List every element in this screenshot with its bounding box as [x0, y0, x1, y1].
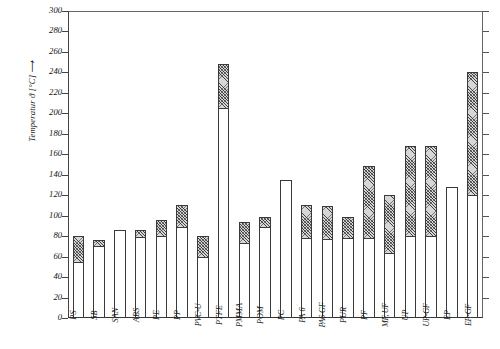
bar-segment-high — [156, 220, 168, 237]
y-tick-right — [483, 216, 489, 217]
bar-segment-high — [467, 72, 479, 196]
bar-segment-low — [405, 236, 417, 318]
y-tick-right — [483, 11, 489, 12]
bar-segment-high — [197, 236, 209, 257]
bar-segment-low — [114, 230, 126, 318]
y-tick-label: 0 — [28, 312, 62, 322]
bar-segment-high — [135, 230, 147, 238]
bar-pe: PE — [156, 220, 168, 318]
bar-ep-gf: EP-GF — [467, 72, 479, 318]
bar-pp: PP — [176, 205, 188, 318]
bar-pa-6: PA 6 — [301, 205, 313, 318]
bar-segment-high — [342, 217, 354, 239]
bar-pur: PUR — [342, 217, 354, 318]
y-tick-label: 280 — [28, 25, 62, 35]
bar-segment-low — [218, 108, 230, 318]
bar-abs: ABS — [135, 230, 147, 318]
y-tick-label: 120 — [28, 189, 62, 199]
y-tick-right — [483, 113, 489, 114]
y-tick-right — [483, 236, 489, 237]
x-tick-label: PA 6 — [298, 307, 307, 322]
bar-segment-low — [259, 227, 271, 318]
bar-pc: PC — [280, 180, 292, 318]
x-tick-label: PTFE — [215, 305, 224, 325]
y-tick-right — [483, 93, 489, 94]
y-tick-label: 300 — [28, 5, 62, 15]
bar-sb: SB — [93, 240, 105, 318]
bar-pmma: PMMA — [239, 222, 251, 318]
y-tick — [62, 318, 68, 319]
bar-pa6-gf: PA6-GF — [322, 206, 334, 318]
x-tick-label: PP — [173, 310, 182, 320]
x-tick-label: MF, UF — [381, 303, 390, 327]
bar-ps: PS — [73, 236, 85, 318]
x-tick-label: PF — [360, 310, 369, 320]
x-tick-label: PS — [69, 310, 78, 319]
bar-segment-high — [239, 222, 251, 244]
bar-san: SAN — [114, 230, 126, 318]
bar-segment-high — [384, 195, 396, 253]
bar-segment-high — [218, 64, 230, 109]
y-tick-right — [483, 31, 489, 32]
bar-segment-low — [280, 180, 292, 318]
y-tick-right — [483, 72, 489, 73]
bar-mf-uf: MF, UF — [384, 195, 396, 318]
x-tick-label: PVC-U — [194, 304, 203, 327]
y-tick-label: 100 — [28, 210, 62, 220]
y-tick-label: 240 — [28, 66, 62, 76]
bar-segment-high — [405, 146, 417, 237]
y-tick-right — [483, 277, 489, 278]
bar-up-gf: UP-GF — [425, 146, 437, 318]
y-tick-right — [483, 298, 489, 299]
x-tick-label: UP-GF — [422, 303, 431, 326]
bar-ep: EP — [446, 187, 458, 318]
y-tick-right — [483, 195, 489, 196]
chart-container: Temperatur ϑ [°C] ⟶ 02040608010012014016… — [0, 0, 500, 349]
bar-segment-high — [363, 166, 375, 240]
bar-segment-low — [176, 227, 188, 318]
x-tick-label: POM — [256, 306, 265, 324]
x-tick-label: PMMA — [235, 303, 244, 327]
bar-segment-high — [93, 240, 105, 247]
y-tick-label: 160 — [28, 148, 62, 158]
bar-segment-high — [176, 205, 188, 227]
y-tick-right — [483, 175, 489, 176]
bar-segment-low — [93, 246, 105, 318]
bar-pom: POM — [259, 217, 271, 318]
bar-segment-high — [301, 205, 313, 239]
bar-segment-low — [446, 187, 458, 318]
x-tick-label: SB — [90, 310, 99, 319]
x-tick-label: PUR — [339, 307, 348, 323]
y-tick-right — [483, 52, 489, 53]
y-tick-right — [483, 134, 489, 135]
y-tick-right — [483, 154, 489, 155]
bar-segment-high — [322, 206, 334, 240]
bar-up: UP — [405, 146, 417, 318]
bar-segment-high — [73, 236, 85, 263]
x-tick-label: PC — [277, 310, 286, 321]
y-tick-label: 200 — [28, 107, 62, 117]
bar-ptfe: PTFE — [218, 64, 230, 318]
x-tick-label: EP-GF — [464, 304, 473, 326]
x-tick-label: ABS — [132, 308, 141, 322]
y-tick-label: 20 — [28, 292, 62, 302]
bar-segment-low — [363, 238, 375, 318]
y-tick-label: 180 — [28, 128, 62, 138]
bar-segment-low — [301, 238, 313, 318]
bar-segment-high — [425, 146, 437, 237]
bar-pvc-u: PVC-U — [197, 236, 209, 318]
bar-segment-low — [135, 237, 147, 318]
y-tick-right — [483, 257, 489, 258]
y-tick-label: 220 — [28, 87, 62, 97]
y-tick-label: 60 — [28, 251, 62, 261]
y-tick-label: 80 — [28, 230, 62, 240]
y-tick-label: 140 — [28, 169, 62, 179]
x-tick-label: UP — [401, 309, 410, 320]
y-tick-label: 260 — [28, 46, 62, 56]
x-tick-label: SAN — [111, 308, 120, 323]
bar-segment-low — [156, 236, 168, 318]
x-tick-label: PA6-GF — [318, 303, 327, 328]
bar-pf: PF — [363, 166, 375, 318]
bar-segment-high — [259, 217, 271, 228]
y-tick-label: 40 — [28, 271, 62, 281]
